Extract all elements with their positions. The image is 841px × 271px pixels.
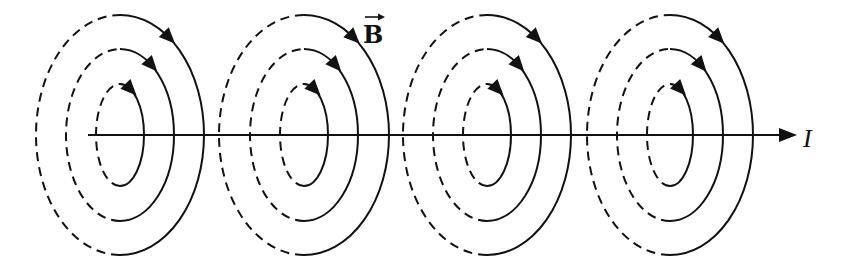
diagram-canvas: B I [0, 0, 841, 271]
field-direction-arrow-icon [487, 79, 503, 95]
field-label: B [363, 14, 385, 50]
current-direction-arrow-icon [779, 128, 797, 142]
field-label-text: B [363, 20, 383, 49]
field-direction-arrow-icon [120, 79, 136, 95]
magnetic-field-diagram: B I [0, 0, 841, 271]
field-direction-arrow-icon [670, 79, 686, 95]
current-label: I [802, 124, 813, 153]
field-direction-arrow-icon [304, 79, 320, 95]
